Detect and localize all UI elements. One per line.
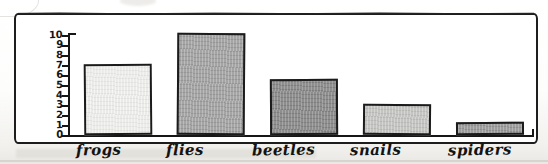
x-label-snails: snails (350, 141, 402, 160)
plot-area: 109876543210 (68, 33, 534, 137)
bar-texture (272, 81, 336, 133)
chart-frame: 109876543210 (14, 13, 538, 144)
bar-group (70, 33, 534, 135)
y-tick-mark (62, 115, 69, 117)
bar-snails (363, 104, 431, 135)
y-tick-label: 0 (56, 129, 63, 140)
page-smudge (120, 0, 156, 6)
bar-texture (86, 65, 151, 133)
x-label-frogs: frogs (76, 141, 122, 160)
bar-flies (177, 33, 246, 135)
bar-spiders (456, 122, 524, 136)
bar-texture (458, 124, 522, 134)
y-tick-mark (62, 85, 69, 87)
x-label-spiders: spiders (448, 140, 512, 159)
bar-frogs (84, 63, 153, 135)
x-axis-category-labels: frogsfliesbeetlessnailsspiders (14, 141, 534, 164)
bar-beetles (270, 79, 338, 135)
bar-texture (365, 106, 429, 133)
y-tick-mark (62, 55, 69, 57)
x-label-beetles: beetles (252, 140, 315, 159)
x-label-flies: flies (166, 141, 204, 159)
paper-sheet: 109876543210 frogsfliesbeetlessnailsspid… (0, 0, 548, 164)
bar-texture (179, 35, 244, 133)
